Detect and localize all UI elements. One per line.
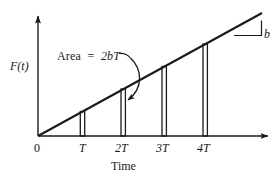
impulse-bar-T [80, 112, 84, 137]
x-tick-label-2T: 2T [115, 142, 128, 154]
x-axis-label: Time [111, 160, 136, 172]
area-annotation-equals: = [88, 49, 95, 63]
area-annotation-label: Area = 2bT [57, 50, 120, 62]
x-tick-label-T: T [79, 142, 86, 154]
y-axis-label: F(t) [10, 60, 29, 72]
slope-label: b [264, 28, 270, 40]
impulse-bar-3T [162, 67, 166, 137]
ramp-function-figure: F(t) Area = 2bT b 0 T 2T 3T 4T Time [0, 0, 280, 179]
annotation-leader-line [119, 53, 131, 58]
figure-canvas [0, 0, 280, 179]
x-tick-label-3T: 3T [156, 142, 169, 154]
impulse-bar-4T [203, 44, 207, 136]
area-annotation-prefix: Area [57, 49, 81, 63]
slope-triangle [234, 21, 262, 36]
x-tick-label-0: 0 [34, 142, 40, 154]
x-tick-label-4T: 4T [197, 142, 210, 154]
ramp-line [38, 13, 262, 136]
area-annotation-value: 2bT [101, 49, 120, 63]
impulse-bar-2T [121, 89, 125, 136]
annotation-curved-arrow [128, 58, 140, 100]
